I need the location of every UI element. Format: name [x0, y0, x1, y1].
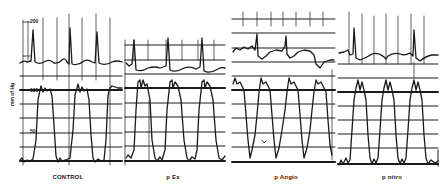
label-p-nitro: p nitro: [382, 174, 402, 180]
y-axis-label: mm of Hg: [9, 83, 15, 106]
panel-p-angio: [232, 12, 335, 162]
panel-p-nitro: [338, 12, 438, 166]
label-p-ex: p Ex: [166, 174, 179, 180]
panel-p-ex: [125, 38, 225, 165]
tick-200: 200: [30, 18, 38, 24]
tick-50: 50: [30, 128, 36, 134]
label-p-angio: p Angio: [274, 174, 298, 180]
label-control: CONTROL: [52, 174, 83, 180]
tick-100: 100: [30, 87, 38, 93]
strip-chart-figure: [0, 0, 447, 189]
